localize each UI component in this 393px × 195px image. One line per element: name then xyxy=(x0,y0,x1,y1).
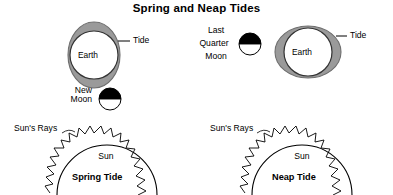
page-title: Spring and Neap Tides xyxy=(0,2,393,14)
neap-sun-label: Sun xyxy=(282,152,322,161)
spring-tide-caption: Spring Tide xyxy=(72,173,122,183)
last-quarter-moon-label-line1: Last xyxy=(196,26,236,35)
neap-tide-label: Tide xyxy=(350,31,366,40)
spring-rays-leader xyxy=(62,130,75,133)
neap-suns-rays-label: Sun's Rays xyxy=(210,124,253,133)
new-moon-icon xyxy=(99,88,121,110)
spring-earth-label: Earth xyxy=(78,51,98,60)
neap-rays-leader xyxy=(257,130,270,133)
last-quarter-moon-label-line3: Moon xyxy=(196,52,236,61)
spring-suns-rays-label: Sun's Rays xyxy=(14,124,57,133)
neap-earth-label: Earth xyxy=(292,48,312,57)
spring-sun-label: Sun xyxy=(86,152,126,161)
new-moon-label-line2: Moon xyxy=(38,95,92,104)
neap-tide-caption: Neap Tide xyxy=(272,173,316,183)
tides-diagram: Spring and Neap Tides Earth Tide New Moo… xyxy=(0,0,393,195)
last-quarter-moon-label-line2: Quarter xyxy=(192,39,236,48)
last-quarter-moon-icon xyxy=(239,33,261,55)
spring-tide-label: Tide xyxy=(133,36,149,45)
